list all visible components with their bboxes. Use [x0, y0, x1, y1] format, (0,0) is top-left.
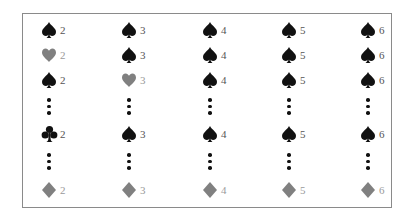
card-rank: 6 — [379, 24, 385, 36]
card-rank: 5 — [300, 128, 306, 140]
card-rank: 5 — [300, 49, 306, 61]
card-rank: 3 — [140, 24, 146, 36]
spade-icon — [201, 124, 219, 144]
card-rank: 5 — [300, 74, 306, 86]
card-cell: 6 — [359, 19, 385, 41]
card-cell: 4 — [201, 44, 227, 66]
card-rank: 6 — [379, 49, 385, 61]
spade-icon — [120, 45, 138, 65]
heart-icon — [40, 45, 58, 65]
card-rank: 3 — [140, 128, 146, 140]
spade-icon — [201, 45, 219, 65]
card-cell: 2 — [40, 19, 66, 41]
diamond-icon — [280, 180, 298, 200]
card-rank: 6 — [379, 128, 385, 140]
spade-icon — [359, 124, 377, 144]
card-rank: 2 — [60, 49, 66, 61]
ellipsis-vertical-icon — [287, 98, 291, 115]
card-rank: 5 — [300, 24, 306, 36]
card-cell: 3 — [120, 44, 146, 66]
ellipsis-vertical-icon — [127, 98, 131, 115]
card-cell: 3 — [120, 69, 146, 91]
card-rank: 2 — [60, 184, 66, 196]
card-cell: 5 — [280, 123, 306, 145]
spade-icon — [280, 70, 298, 90]
spade-icon — [280, 124, 298, 144]
card-cell: 2 — [40, 179, 66, 201]
card-rank: 3 — [140, 74, 146, 86]
ellipsis-vertical-icon — [208, 98, 212, 115]
card-cell: 3 — [120, 179, 146, 201]
card-cell: 6 — [359, 69, 385, 91]
card-rank: 4 — [221, 184, 227, 196]
heart-icon — [120, 70, 138, 90]
card-cell: 4 — [201, 179, 227, 201]
card-rank: 4 — [221, 49, 227, 61]
card-cell: 2 — [40, 69, 66, 91]
spade-icon — [280, 45, 298, 65]
spade-icon — [40, 20, 58, 40]
card-cell: 2 — [40, 44, 66, 66]
card-rank: 2 — [60, 24, 66, 36]
card-cell: 5 — [280, 179, 306, 201]
card-cell: 6 — [359, 179, 385, 201]
spade-icon — [201, 70, 219, 90]
diamond-icon — [40, 180, 58, 200]
ellipsis-vertical-icon — [47, 98, 51, 115]
diamond-icon — [120, 180, 138, 200]
spade-icon — [201, 20, 219, 40]
diamond-icon — [201, 180, 219, 200]
spade-icon — [120, 20, 138, 40]
spade-icon — [359, 20, 377, 40]
spade-icon — [280, 20, 298, 40]
club-icon — [40, 124, 58, 144]
card-rank: 6 — [379, 74, 385, 86]
card-rank: 4 — [221, 24, 227, 36]
card-cell: 3 — [120, 123, 146, 145]
spade-icon — [359, 70, 377, 90]
card-cell: 3 — [120, 19, 146, 41]
ellipsis-vertical-icon — [127, 153, 131, 170]
card-cell: 5 — [280, 44, 306, 66]
card-rank: 5 — [300, 184, 306, 196]
ellipsis-vertical-icon — [47, 153, 51, 170]
card-rank: 6 — [379, 184, 385, 196]
spade-icon — [120, 124, 138, 144]
ellipsis-vertical-icon — [366, 153, 370, 170]
card-rank: 2 — [60, 128, 66, 140]
card-cell: 6 — [359, 44, 385, 66]
ellipsis-vertical-icon — [287, 153, 291, 170]
spade-icon — [359, 45, 377, 65]
card-cell: 4 — [201, 123, 227, 145]
ellipsis-vertical-icon — [208, 153, 212, 170]
ellipsis-vertical-icon — [366, 98, 370, 115]
card-rank: 4 — [221, 128, 227, 140]
card-rank: 2 — [60, 74, 66, 86]
spade-icon — [40, 70, 58, 90]
card-cell: 5 — [280, 19, 306, 41]
card-rank: 3 — [140, 49, 146, 61]
card-cell: 6 — [359, 123, 385, 145]
card-cell: 5 — [280, 69, 306, 91]
card-cell: 4 — [201, 19, 227, 41]
card-rank: 3 — [140, 184, 146, 196]
card-cell: 4 — [201, 69, 227, 91]
card-rank: 4 — [221, 74, 227, 86]
diamond-icon — [359, 180, 377, 200]
card-cell: 2 — [40, 123, 66, 145]
